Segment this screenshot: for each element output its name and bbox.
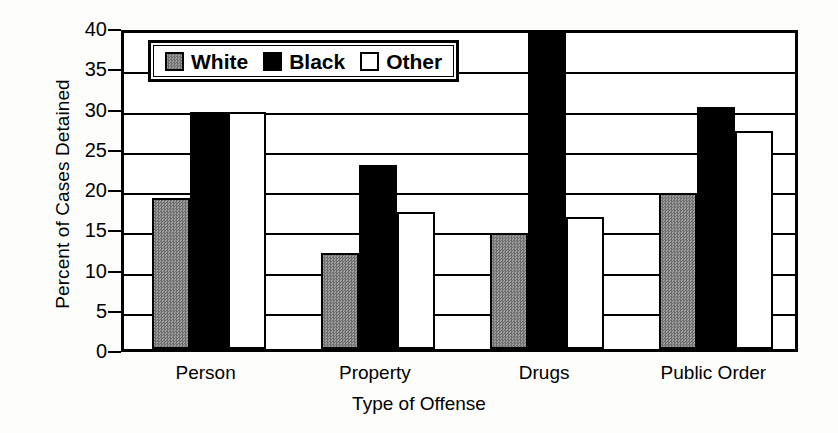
- bar-person-white: [152, 198, 190, 349]
- x-category-label-public-order: Public Order: [661, 362, 767, 384]
- gray-hatched-square-icon: [165, 52, 184, 71]
- legend-entry-other[interactable]: Other: [360, 51, 442, 72]
- y-tick-mark-35: [108, 69, 121, 71]
- x-category-label-drugs: Drugs: [519, 362, 570, 384]
- y-tick-mark-10: [108, 271, 121, 273]
- y-tick-mark-0: [108, 351, 121, 353]
- bar-drugs-other: [566, 217, 604, 349]
- legend: WhiteBlackOther: [148, 40, 459, 82]
- x-axis-title: Type of Offense: [0, 393, 838, 415]
- y-tick-mark-15: [108, 230, 121, 232]
- bar-public-order-white: [659, 193, 697, 349]
- bar-property-black: [359, 165, 397, 349]
- bar-drugs-black: [528, 30, 566, 349]
- bar-chart-figure: Percent of Cases Detained 05101520253035…: [0, 0, 838, 433]
- bar-property-other: [397, 212, 435, 349]
- legend-label-other: Other: [386, 51, 442, 72]
- y-tick-label-5: 5: [47, 301, 107, 321]
- bar-public-order-black: [697, 107, 735, 349]
- y-tick-label-10: 10: [47, 261, 107, 281]
- y-tick-mark-40: [108, 29, 121, 31]
- y-tick-label-35: 35: [47, 59, 107, 79]
- y-tick-mark-5: [108, 311, 121, 313]
- y-tick-mark-20: [108, 190, 121, 192]
- bar-person-black: [190, 112, 228, 349]
- legend-entry-white[interactable]: White: [165, 51, 248, 72]
- legend-label-white: White: [191, 51, 248, 72]
- legend-label-black: Black: [289, 51, 345, 72]
- legend-inner: WhiteBlackOther: [153, 45, 454, 77]
- bar-drugs-white: [490, 233, 528, 349]
- y-tick-mark-30: [108, 110, 121, 112]
- white-square-icon: [360, 52, 379, 71]
- bar-public-order-other: [735, 131, 773, 349]
- y-tick-label-40: 40: [47, 19, 107, 39]
- y-tick-label-0: 0: [47, 341, 107, 361]
- y-tick-mark-25: [108, 150, 121, 152]
- bar-property-white: [321, 253, 359, 349]
- bar-person-other: [228, 112, 266, 349]
- black-square-icon: [263, 52, 282, 71]
- y-tick-label-25: 25: [47, 140, 107, 160]
- x-category-label-property: Property: [339, 362, 411, 384]
- y-tick-label-30: 30: [47, 100, 107, 120]
- x-category-label-person: Person: [176, 362, 236, 384]
- legend-entry-black[interactable]: Black: [263, 51, 345, 72]
- y-tick-label-20: 20: [47, 180, 107, 200]
- y-tick-label-15: 15: [47, 220, 107, 240]
